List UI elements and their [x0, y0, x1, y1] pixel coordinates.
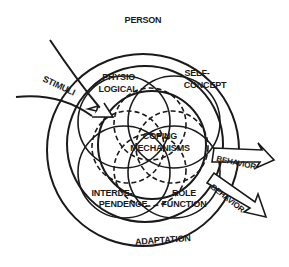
person-label: PERSON	[125, 15, 162, 25]
role-label-line1: ROLE	[172, 188, 196, 198]
interdependence-label-line1: INTERDE-	[92, 188, 133, 198]
coping-label-line2: MECHANISMS	[130, 143, 190, 153]
roy-adaptation-diagram: PERSON STIMULI PHYSIO- LOGICAL SELF- CON…	[0, 0, 289, 267]
role-label-line2: FUNCTION	[162, 199, 207, 209]
interdependence-label-line2: PENDENCE	[99, 199, 148, 209]
self-concept-label-line2: CONCEPT	[184, 80, 227, 90]
adaptation-label: ADAPTATION	[135, 233, 191, 247]
coping-label-line1: COPING	[143, 131, 178, 141]
stimuli-arrow	[16, 40, 113, 117]
physiological-label-line1: PHYSIO-	[102, 72, 138, 82]
self-concept-label-line1: SELF-	[185, 68, 210, 78]
physiological-label-line2: LOGICAL	[98, 84, 138, 94]
stimuli-label: STIMULI	[41, 74, 77, 98]
